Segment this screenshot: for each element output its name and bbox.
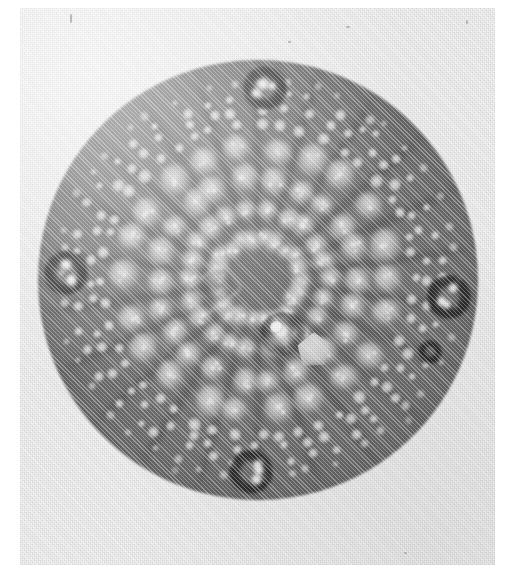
cribrum-pore	[229, 315, 232, 318]
outer-pore	[74, 327, 83, 335]
outer-pore	[332, 446, 340, 454]
cribrum-pore	[210, 366, 215, 370]
outer-pore	[414, 225, 423, 235]
outer-pore	[280, 440, 288, 449]
cribrum-pore	[142, 345, 146, 349]
outer-pore	[412, 273, 421, 281]
outer-pore	[100, 297, 111, 309]
outer-pore	[107, 368, 118, 379]
outer-pore	[106, 410, 115, 421]
outer-pore	[318, 431, 330, 443]
outer-pore	[326, 120, 336, 130]
outer-pore	[225, 96, 234, 104]
outer-pore	[86, 254, 96, 266]
cribrum-pore	[336, 372, 340, 376]
process-top	[243, 66, 287, 110]
cribrum-pore	[324, 204, 329, 207]
outer-pore	[115, 343, 125, 353]
outer-pore	[138, 169, 151, 184]
outer-pore	[93, 330, 102, 338]
process-left	[44, 251, 88, 295]
cribrum-pore	[265, 381, 269, 386]
outer-pore	[114, 158, 122, 165]
outer-pore	[365, 115, 374, 124]
outer-pore	[219, 470, 228, 480]
outer-pore	[63, 338, 70, 345]
cribrum-pore	[188, 259, 193, 263]
outer-pore	[112, 179, 125, 193]
outer-pore	[231, 80, 239, 89]
cribrum-pore	[298, 194, 303, 197]
cribrum-pore	[387, 316, 391, 320]
outer-pore	[335, 109, 345, 120]
cribrum-pore	[163, 248, 167, 253]
outer-pore	[369, 415, 378, 423]
cribrum-pore	[240, 144, 244, 148]
outer-pore	[419, 163, 428, 173]
outer-pore	[372, 130, 380, 138]
outer-pore	[203, 126, 212, 134]
cribrum-pore	[150, 209, 154, 213]
cribrum-pore	[176, 229, 180, 234]
outer-pore	[408, 373, 416, 381]
outer-pore	[422, 257, 431, 265]
screenshot-root: diatom valve (centric frustule) in plan …	[0, 0, 510, 583]
cribrum-pore	[300, 224, 306, 229]
outer-pore	[166, 421, 176, 431]
outer-pore	[370, 174, 383, 189]
cribrum-pore	[209, 228, 213, 232]
outer-pore	[106, 228, 115, 237]
outer-pore	[416, 390, 425, 399]
outer-pore	[210, 110, 220, 121]
outer-pore	[376, 426, 385, 435]
outer-pore	[97, 246, 109, 259]
areolae-field	[38, 60, 478, 500]
cribrum-pore	[372, 351, 376, 354]
outer-pore	[401, 145, 408, 151]
outer-pore	[258, 429, 269, 441]
outer-pore	[96, 210, 106, 221]
outer-pore	[436, 192, 445, 201]
cribrum-pore	[226, 220, 231, 225]
rimoportula-icon	[418, 340, 442, 364]
outer-pore	[302, 437, 313, 448]
outer-pore	[109, 215, 119, 224]
cribrum-pore	[217, 366, 222, 370]
outer-pore	[185, 120, 195, 129]
outer-pore	[231, 120, 242, 130]
cribrum-pore	[130, 317, 136, 322]
cribrum-pore	[166, 372, 170, 375]
cribrum-pore	[319, 262, 324, 267]
cribrum-pore	[265, 378, 269, 382]
process-pore	[257, 78, 269, 90]
outer-pore	[432, 321, 440, 328]
outer-pore	[313, 420, 324, 431]
dust-speck	[404, 552, 407, 554]
outer-pore	[104, 320, 114, 331]
outer-pore	[60, 298, 69, 308]
outer-pore	[393, 335, 405, 348]
outer-pore	[405, 416, 413, 425]
cribrum-pore	[265, 208, 269, 213]
dust-speck	[288, 41, 291, 43]
dust-speck	[346, 26, 350, 28]
photograph-print	[20, 8, 495, 565]
outer-pore	[317, 133, 330, 145]
outer-pore	[368, 148, 377, 158]
outer-pore	[208, 451, 219, 461]
cribrum-pore	[337, 172, 342, 178]
cribrum-pore	[211, 189, 216, 193]
outer-pore	[203, 439, 212, 448]
process-pore	[251, 474, 262, 485]
cribrum-pore	[184, 276, 189, 281]
outer-pore	[92, 226, 102, 236]
cribrum-pore	[356, 280, 359, 284]
cribrum-pore	[189, 305, 193, 308]
cribrum-pore	[316, 153, 320, 157]
outer-pore	[87, 280, 96, 289]
cribrum-pore	[240, 176, 245, 179]
cribrum-pore	[350, 303, 353, 306]
process-pore	[437, 296, 446, 305]
process-right	[427, 275, 471, 319]
cribrum-pore	[245, 379, 249, 384]
